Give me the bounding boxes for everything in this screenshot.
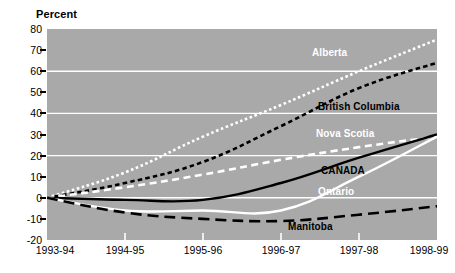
series-label-alberta: Alberta <box>312 47 347 58</box>
percent-line-chart: Percent 80706050403020100-10-20 1993-941… <box>0 0 455 273</box>
x-tick-label: 1997-98 <box>340 244 379 256</box>
y-tick-mark <box>40 176 46 178</box>
series-label-british-columbia: British Columbia <box>318 101 400 112</box>
y-tick-label: 10 <box>6 172 42 182</box>
series-label-manitoba: Manitoba <box>288 221 333 232</box>
plot-lines <box>47 29 437 240</box>
x-tick-label: 1993-94 <box>36 244 75 256</box>
y-axis-tick-labels: 80706050403020100-10-20 <box>0 0 42 273</box>
y-tick-label: 40 <box>6 108 42 118</box>
y-tick-label: 70 <box>6 45 42 55</box>
series-label-canada: CANADA <box>321 165 365 176</box>
y-tick-label: 20 <box>6 151 42 161</box>
series-label-ontario: Ontario <box>318 186 354 197</box>
plot-area <box>46 28 438 241</box>
series-line-manitoba <box>47 198 437 221</box>
y-axis-title: Percent <box>36 8 77 20</box>
y-tick-label: 50 <box>6 87 42 97</box>
x-tick-label: 1996-97 <box>262 244 301 256</box>
x-axis-tick-labels: 1993-941994-951995-961996-971997-981998-… <box>0 244 455 264</box>
y-tick-mark <box>40 70 46 72</box>
y-tick-label: 30 <box>6 130 42 140</box>
series-line-alberta <box>47 40 437 198</box>
y-tick-mark <box>40 112 46 114</box>
x-tick-label: 1998-99 <box>410 244 449 256</box>
series-line-british-columbia <box>47 63 437 198</box>
y-tick-mark <box>40 218 46 220</box>
y-tick-label: 0 <box>6 193 42 203</box>
y-tick-mark <box>40 134 46 136</box>
x-tick-label: 1994-95 <box>106 244 145 256</box>
x-tick-label: 1995-96 <box>184 244 223 256</box>
series-line-ontario <box>47 137 437 214</box>
y-tick-mark <box>40 197 46 199</box>
y-tick-label: 60 <box>6 66 42 76</box>
y-tick-mark <box>40 155 46 157</box>
y-tick-label: -10 <box>6 214 42 224</box>
y-tick-label: 80 <box>6 24 42 34</box>
y-tick-mark <box>40 91 46 93</box>
series-label-nova-scotia: Nova Scotia <box>316 128 374 139</box>
y-tick-mark <box>40 49 46 51</box>
